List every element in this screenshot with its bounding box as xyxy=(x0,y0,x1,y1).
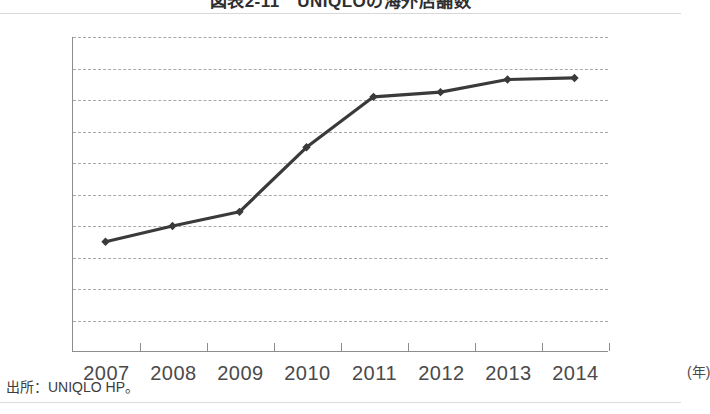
data-point xyxy=(168,222,176,230)
series-line xyxy=(106,78,575,242)
data-point xyxy=(570,74,578,82)
x-axis-tick xyxy=(609,343,610,351)
x-axis-tick-label: 2010 xyxy=(284,362,331,385)
x-axis-tick-label: 2011 xyxy=(352,362,397,385)
series-markers xyxy=(101,74,578,246)
x-axis-tick-label: 2012 xyxy=(418,362,465,385)
data-point xyxy=(436,88,444,96)
page-title: 図表2-11 UNIQLOの海外店舗数 xyxy=(0,0,681,12)
data-point xyxy=(503,75,511,83)
x-axis-tick-label: 2009 xyxy=(217,362,264,385)
line-chart: 660680700720740760780800820840860 200720… xyxy=(0,18,681,370)
bottom-divider xyxy=(0,402,681,403)
x-axis-tick-label: 2008 xyxy=(150,362,197,385)
data-point xyxy=(101,238,109,246)
title-divider xyxy=(0,13,681,14)
x-axis-tick-label: 2014 xyxy=(552,362,599,385)
x-axis-unit-label: (年) xyxy=(687,361,710,381)
data-series-overseas-stores xyxy=(72,37,608,352)
source-note: 出所：UNIQLO HP。 xyxy=(6,376,139,396)
x-axis-tick-label: 2013 xyxy=(485,362,532,385)
